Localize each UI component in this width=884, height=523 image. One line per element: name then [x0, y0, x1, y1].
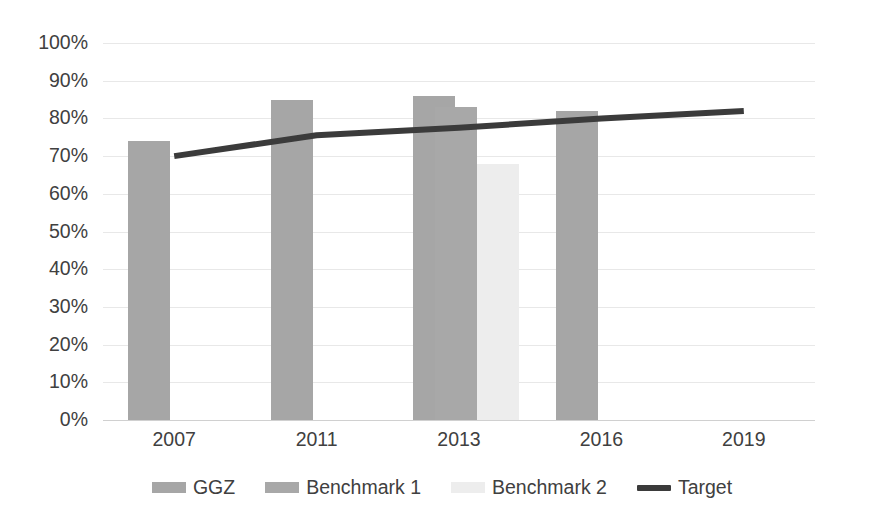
y-tick-label: 90% [18, 71, 88, 91]
bar-benchmark2-2013 [477, 164, 519, 420]
y-tick-label: 60% [18, 184, 88, 204]
legend-item-target[interactable]: Target [637, 478, 732, 498]
gridline [103, 43, 815, 44]
y-tick-label: 80% [18, 108, 88, 128]
bar-ggz-2007 [128, 141, 170, 420]
x-tick-label: 2007 [99, 430, 249, 450]
legend-label: Target [678, 478, 732, 498]
y-tick-label: 50% [18, 222, 88, 242]
legend-swatch-icon [265, 482, 299, 493]
legend-item-benchmark-1[interactable]: Benchmark 1 [265, 478, 421, 498]
chart-legend: GGZ Benchmark 1 Benchmark 2 Target [0, 478, 884, 498]
bar-ggz-2016 [556, 111, 598, 420]
y-tick-label: 20% [18, 335, 88, 355]
legend-line-icon [637, 485, 671, 491]
legend-swatch-icon [152, 482, 186, 493]
legend-item-ggz[interactable]: GGZ [152, 478, 235, 498]
x-tick-label: 2011 [242, 430, 392, 450]
legend-swatch-icon [451, 482, 485, 493]
y-tick-label: 0% [18, 410, 88, 430]
bar-benchmark1-2013 [435, 107, 477, 420]
y-tick-label: 100% [18, 33, 88, 53]
legend-label: Benchmark 2 [492, 478, 607, 498]
x-tick-label: 2013 [384, 430, 534, 450]
y-tick-label: 10% [18, 372, 88, 392]
chart-container: 100% 90% 80% 70% 60% 50% 40% 30% 20% 10%… [0, 0, 884, 523]
x-axis-baseline [103, 420, 815, 421]
bar-ggz-2011 [271, 100, 313, 421]
gridline [103, 81, 815, 82]
y-tick-label: 30% [18, 297, 88, 317]
x-tick-label: 2016 [526, 430, 676, 450]
x-tick-label: 2019 [669, 430, 819, 450]
y-tick-label: 70% [18, 146, 88, 166]
plot-area [103, 43, 815, 420]
legend-item-benchmark-2[interactable]: Benchmark 2 [451, 478, 607, 498]
legend-label: GGZ [193, 478, 235, 498]
legend-label: Benchmark 1 [306, 478, 421, 498]
y-tick-label: 40% [18, 259, 88, 279]
